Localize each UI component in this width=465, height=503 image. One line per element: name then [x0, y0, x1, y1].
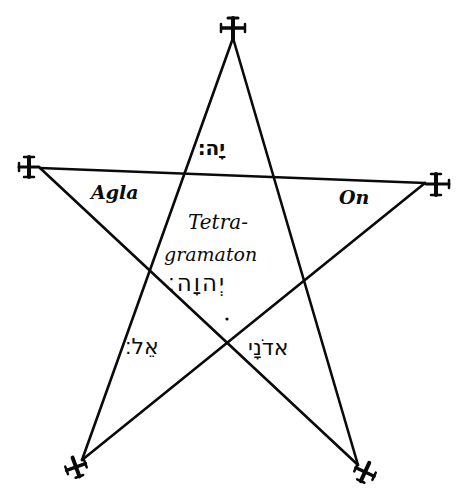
bottom-right-hebrew-label: אדֹנָי: [248, 337, 288, 359]
cross-icon-right: [426, 174, 449, 195]
center-hebrew-label: יְהוָה׃: [168, 272, 226, 295]
cross-icon-left: [19, 157, 39, 177]
right-point-label-on: On: [339, 188, 369, 207]
center-label-tetra: Tetra-: [188, 212, 248, 232]
star-edge-right-to-bottomleft: [82, 183, 425, 460]
top-point-hebrew-label: יָה׃: [198, 138, 225, 158]
cross-icon-top: [221, 18, 245, 39]
center-label-gramaton: gramaton: [164, 245, 257, 264]
bottom-left-hebrew-label: אֵל׃: [125, 336, 159, 358]
left-point-label-agla: Agla: [91, 183, 139, 202]
center-dot: [225, 317, 228, 320]
